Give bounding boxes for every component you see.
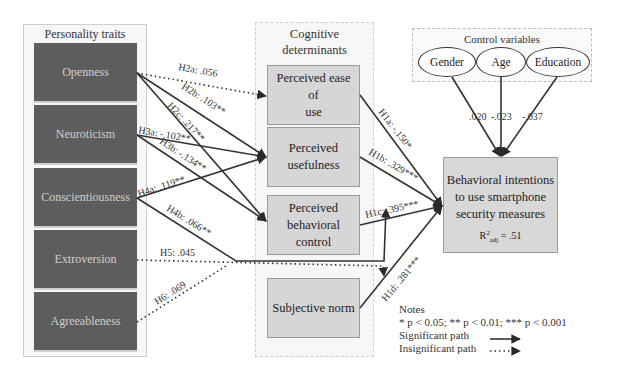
notes-title: Notes xyxy=(399,303,567,316)
label-h1d: H1d: .281*** xyxy=(379,254,423,303)
label-h5: H5: .045 xyxy=(160,247,195,258)
legend-significant-label: Significant path xyxy=(399,329,469,342)
path-h5 xyxy=(137,260,384,276)
label-education-coef: -.037 xyxy=(522,111,543,122)
label-age-coef: -.023 xyxy=(491,111,512,122)
legend-significant: Significant path xyxy=(399,329,567,342)
label-h4a: H4a: .119** xyxy=(136,173,186,199)
label-h2b: H2b: .103** xyxy=(180,80,228,116)
legend-insignificant-label: Insignificant path xyxy=(399,342,476,355)
path-h6 xyxy=(137,266,226,322)
label-h1c: H1c: .395*** xyxy=(364,198,420,220)
notes-significance: * p < 0.05; ** p < 0.01; *** p < 0.001 xyxy=(399,316,567,329)
notes-legend: Notes * p < 0.05; ** p < 0.01; *** p < 0… xyxy=(399,303,567,355)
path-h2b xyxy=(137,73,266,157)
path-h1d xyxy=(360,206,442,308)
label-h2a: H2a: .056 xyxy=(178,61,219,79)
legend-insignificant: Insignificant path xyxy=(399,342,567,355)
label-gender-coef: .020 xyxy=(469,111,487,122)
